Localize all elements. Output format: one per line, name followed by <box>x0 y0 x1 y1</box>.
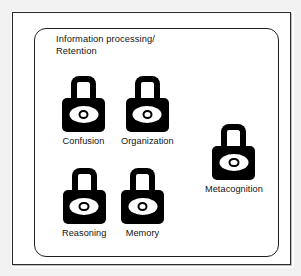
scan-margin-left <box>0 0 11 276</box>
padlock-keyhole-ring <box>78 110 89 120</box>
padlock-keyhole-ring <box>79 202 90 212</box>
padlock-keyhole-plate <box>69 106 98 123</box>
container-title: Information processing/ Retention <box>56 34 246 57</box>
padlock-icon <box>121 168 164 224</box>
scan-margin-right <box>294 0 301 276</box>
padlock-keyhole-ring <box>229 158 240 168</box>
node-memory[interactable]: Memory <box>121 168 164 239</box>
node-label-confusion: Confusion <box>63 136 105 147</box>
node-confusion[interactable]: Confusion <box>62 76 105 147</box>
padlock-keyhole-plate <box>128 198 157 215</box>
node-label-organization: Organization <box>121 136 174 147</box>
padlock-icon <box>212 124 255 180</box>
padlock-icon <box>62 76 105 132</box>
padlock-icon <box>126 76 169 132</box>
scan-margin-bottom <box>0 268 301 276</box>
padlock-keyhole-ring <box>142 110 153 120</box>
node-label-memory: Memory <box>126 228 159 239</box>
padlock-keyhole-plate <box>133 106 162 123</box>
padlock-icon <box>63 168 106 224</box>
node-label-reasoning: Reasoning <box>62 228 106 239</box>
padlock-keyhole-plate <box>219 154 248 171</box>
node-label-metacognition: Metacognition <box>205 184 263 195</box>
figure-canvas: Information processing/ Retention Confus… <box>0 0 301 276</box>
padlock-keyhole-plate <box>70 198 99 215</box>
node-metacognition[interactable]: Metacognition <box>205 124 263 195</box>
scan-margin-top <box>0 0 301 11</box>
padlock-keyhole-ring <box>137 202 148 212</box>
node-organization[interactable]: Organization <box>121 76 174 147</box>
node-reasoning[interactable]: Reasoning <box>62 168 106 239</box>
